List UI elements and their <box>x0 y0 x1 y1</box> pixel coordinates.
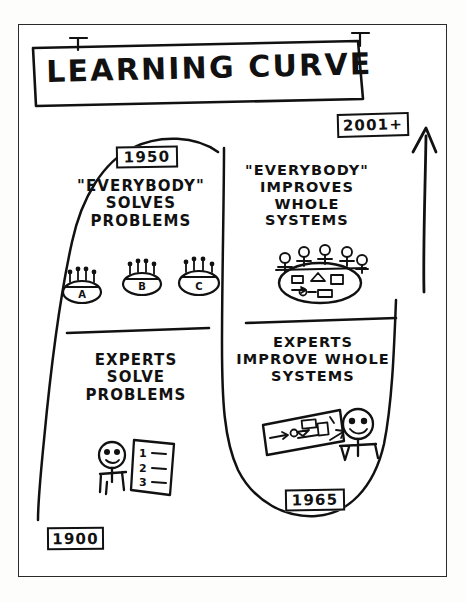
quadrant-top-left-heading: "EVERYBODY" SOLVES PROBLEMS <box>66 178 216 230</box>
group-icon-b: B <box>123 259 161 295</box>
team-process-icon <box>276 245 368 303</box>
svg-text:C: C <box>195 281 202 292</box>
quadrant-bottom-left-heading: EXPERTS SOLVE PROBLEMS <box>56 352 216 404</box>
svg-text:A: A <box>78 289 86 300</box>
ink-layer: A B C <box>0 0 467 602</box>
expert-flowchart-icon <box>263 409 378 460</box>
quadrant-top-right-heading: "EVERYBODY" IMPROVES WHOLE SYSTEMS <box>232 162 382 229</box>
divider-left <box>67 328 209 333</box>
year-label-2001: 2001+ <box>337 112 410 138</box>
quadrant-bottom-right-heading: EXPERTS IMPROVE WHOLE SYSTEMS <box>228 334 398 384</box>
year-label-1950: 1950 <box>116 145 178 168</box>
divider-right <box>246 318 396 323</box>
year-label-1965: 1965 <box>285 488 345 511</box>
svg-text:1: 1 <box>139 447 147 460</box>
up-arrow-icon <box>413 128 436 292</box>
learning-curve-diagram: A B C <box>0 0 467 602</box>
svg-text:B: B <box>138 281 146 292</box>
group-icon-a: A <box>63 267 101 303</box>
svg-text:2: 2 <box>139 462 147 475</box>
svg-text:3: 3 <box>139 476 147 489</box>
expert-checklist-icon: 1 2 3 <box>99 440 174 495</box>
year-label-1900: 1900 <box>47 527 104 550</box>
group-icon-c: C <box>179 257 219 295</box>
